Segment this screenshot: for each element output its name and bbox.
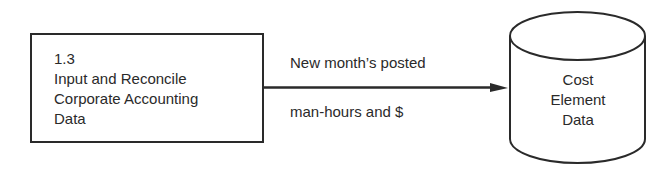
datastore-line-3: Data bbox=[510, 110, 646, 130]
datastore-line-1: Cost bbox=[510, 70, 646, 90]
process-title-line-1: Input and Reconcile bbox=[54, 69, 198, 89]
datastore-label: Cost Element Data bbox=[510, 70, 646, 130]
flow-label-top: New month’s posted bbox=[290, 54, 426, 71]
flow-arrow bbox=[262, 83, 508, 92]
process-title-line-2: Corporate Accounting bbox=[54, 89, 198, 109]
process-number: 1.3 bbox=[54, 49, 198, 69]
process-box: 1.3 Input and Reconcile Corporate Accoun… bbox=[30, 33, 264, 143]
process-title-line-3: Data bbox=[54, 109, 198, 129]
flow-label-bottom: man-hours and $ bbox=[290, 103, 403, 120]
datastore-line-2: Element bbox=[510, 90, 646, 110]
process-text: 1.3 Input and Reconcile Corporate Accoun… bbox=[54, 49, 198, 129]
